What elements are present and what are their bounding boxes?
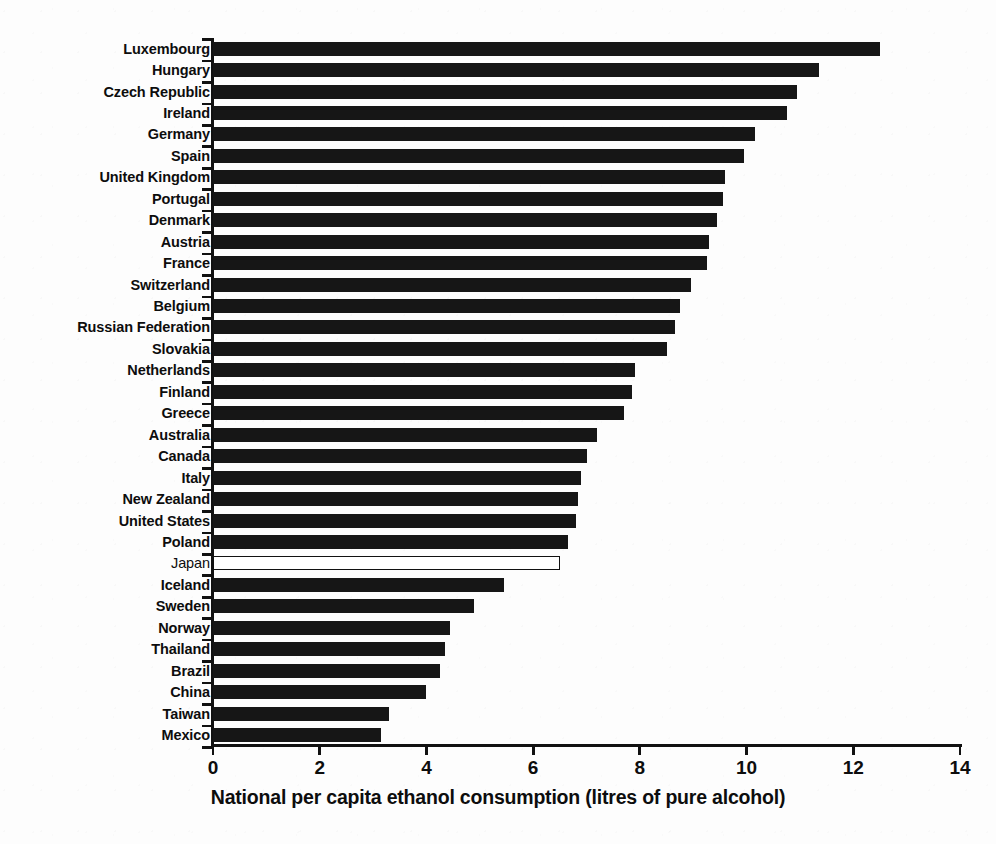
category-label: Spain: [171, 148, 210, 164]
bar: [213, 278, 691, 292]
chart-page: LuxembourgHungaryCzech RepublicIrelandGe…: [0, 0, 996, 844]
bar-row: Sweden: [0, 596, 996, 617]
bar-row: Australia: [0, 424, 996, 445]
category-label: Sweden: [156, 598, 210, 614]
bar-row: Poland: [0, 531, 996, 552]
bar: [213, 170, 725, 184]
bar: [213, 428, 597, 442]
bar-row: Denmark: [0, 210, 996, 231]
x-axis-tick: [318, 744, 321, 755]
bar-row: United Kingdom: [0, 167, 996, 188]
y-axis-tick: [202, 381, 213, 384]
bar-row: Canada: [0, 446, 996, 467]
category-label: New Zealand: [122, 491, 210, 507]
bar: [213, 85, 797, 99]
bar-row: Switzerland: [0, 274, 996, 295]
bar: [213, 213, 717, 227]
category-label: Denmark: [149, 212, 210, 228]
bar-row: Iceland: [0, 574, 996, 595]
bar: [213, 363, 635, 377]
category-label: Taiwan: [163, 706, 210, 722]
bar: [213, 578, 504, 592]
bar-row: Austria: [0, 231, 996, 252]
x-axis-line: [211, 744, 962, 747]
y-axis-tick: [202, 81, 213, 84]
y-axis-tick: [202, 253, 213, 256]
bar-row: Slovakia: [0, 338, 996, 359]
bar: [213, 685, 426, 699]
y-axis-tick: [202, 403, 213, 406]
category-label: China: [170, 684, 210, 700]
bar-highlighted: [213, 556, 560, 570]
category-label: Ireland: [163, 105, 210, 121]
y-axis-tick: [202, 188, 213, 191]
y-axis-tick: [202, 446, 213, 449]
bar: [213, 256, 707, 270]
y-axis-tick: [202, 532, 213, 535]
bar: [213, 514, 576, 528]
bar: [213, 599, 474, 613]
x-axis-tick-label: 8: [610, 757, 670, 779]
bar-row: Luxembourg: [0, 38, 996, 59]
x-axis-tick-label: 6: [503, 757, 563, 779]
x-axis-tick-label: 0: [183, 757, 243, 779]
y-axis-tick: [202, 296, 213, 299]
bar-row: China: [0, 682, 996, 703]
x-axis-tick: [852, 744, 855, 755]
y-axis-tick: [202, 60, 213, 63]
bar: [213, 535, 568, 549]
x-axis-tick-label: 12: [823, 757, 883, 779]
bar: [213, 235, 709, 249]
bar-row: Italy: [0, 467, 996, 488]
category-label: Thailand: [151, 641, 210, 657]
bar: [213, 63, 819, 77]
x-axis-tick: [425, 744, 428, 755]
bar-row: Ireland: [0, 102, 996, 123]
category-label: Luxembourg: [123, 41, 210, 57]
x-axis-tick-label: 2: [290, 757, 350, 779]
y-axis-tick: [202, 639, 213, 642]
category-label: Greece: [161, 405, 210, 421]
category-label: Finland: [159, 384, 210, 400]
category-label: France: [163, 255, 210, 271]
category-label: Switzerland: [131, 277, 210, 293]
bar: [213, 728, 381, 742]
y-axis-tick: [202, 703, 213, 706]
bar-row: Brazil: [0, 660, 996, 681]
x-axis-tick-label: 14: [930, 757, 990, 779]
bar-row: United States: [0, 510, 996, 531]
bar: [213, 471, 581, 485]
x-axis-tick: [532, 744, 535, 755]
y-axis-tick: [202, 510, 213, 513]
x-axis-tick: [745, 744, 748, 755]
y-axis-tick: [202, 660, 213, 663]
bar-row: Greece: [0, 403, 996, 424]
bar: [213, 42, 880, 56]
bar-chart-plot-area: LuxembourgHungaryCzech RepublicIrelandGe…: [0, 0, 996, 844]
category-label: United States: [119, 513, 210, 529]
y-axis-tick: [202, 489, 213, 492]
bar-row: Belgium: [0, 295, 996, 316]
y-axis-tick: [202, 553, 213, 556]
category-label: Slovakia: [152, 341, 210, 357]
y-axis-tick: [202, 167, 213, 170]
bar-row: Netherlands: [0, 360, 996, 381]
bar: [213, 449, 587, 463]
bar: [213, 127, 755, 141]
category-label: Czech Republic: [103, 84, 210, 100]
y-axis-tick: [202, 124, 213, 127]
bar: [213, 342, 667, 356]
category-label: Hungary: [152, 62, 210, 78]
y-axis-tick: [202, 145, 213, 148]
category-label: Japan: [171, 555, 210, 571]
x-axis-tick: [638, 744, 641, 755]
bar-row: Finland: [0, 381, 996, 402]
y-axis-tick: [202, 424, 213, 427]
bar: [213, 299, 680, 313]
bar-row: Germany: [0, 124, 996, 145]
bar: [213, 642, 445, 656]
bar: [213, 106, 787, 120]
category-label: Australia: [149, 427, 210, 443]
bar: [213, 406, 624, 420]
bar: [213, 664, 440, 678]
